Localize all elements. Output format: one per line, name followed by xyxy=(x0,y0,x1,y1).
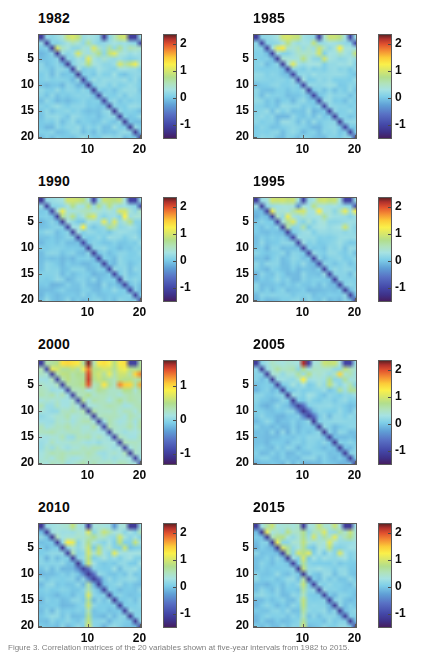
y-tick-mark xyxy=(39,411,42,412)
panel-title: 2010 xyxy=(38,500,70,515)
colorbar-tick-labels: -1012 xyxy=(180,197,210,302)
y-tick-label: 5 xyxy=(215,215,249,227)
x-tick-label: 10 xyxy=(296,143,309,155)
heatmap-matrix xyxy=(254,35,357,139)
x-tick-mark xyxy=(88,298,89,301)
y-tick-mark xyxy=(254,600,257,601)
panel-title: 1982 xyxy=(38,11,70,26)
heatmap-panel-2005: 200551015201020-1012 xyxy=(215,326,430,489)
colorbar-tick-mark xyxy=(388,234,391,235)
heatmap-panel-2010: 201051015201020-1012 xyxy=(0,489,215,652)
colorbar-tick-mark xyxy=(173,587,176,588)
colorbar-gradient xyxy=(164,35,176,138)
x-tick-label: 10 xyxy=(296,306,309,318)
colorbar-tick-label: 1 xyxy=(180,64,187,76)
colorbar-tick-label: 0 xyxy=(395,580,402,592)
y-tick-mark xyxy=(39,437,42,438)
colorbar-tick-label: 2 xyxy=(180,37,187,49)
colorbar-gradient xyxy=(379,198,391,301)
colorbar-tick-mark xyxy=(173,125,176,126)
x-tick-mark xyxy=(355,298,356,301)
y-tick-label: 5 xyxy=(215,378,249,390)
colorbar-tick-label: -1 xyxy=(180,281,191,293)
x-axis-ticks: 1020 xyxy=(253,467,357,485)
y-tick-mark xyxy=(39,222,42,223)
heatmap-plot-area xyxy=(253,360,357,465)
x-tick-mark xyxy=(140,624,141,627)
y-tick-label: 20 xyxy=(215,619,249,631)
colorbar-tick-mark xyxy=(173,234,176,235)
y-tick-label: 20 xyxy=(0,293,34,305)
x-tick-label: 20 xyxy=(348,469,361,481)
x-tick-label: 20 xyxy=(348,306,361,318)
colorbar-tick-label: 0 xyxy=(180,413,187,425)
x-axis-ticks: 1020 xyxy=(38,141,142,159)
y-tick-mark xyxy=(39,548,42,549)
x-tick-mark xyxy=(303,135,304,138)
colorbar-tick-labels: -1012 xyxy=(180,523,210,628)
y-axis-ticks: 5101520 xyxy=(0,523,34,628)
y-tick-mark xyxy=(254,437,257,438)
colorbar-tick-label: -1 xyxy=(180,607,191,619)
colorbar-tick-mark xyxy=(173,207,176,208)
colorbar-tick-mark xyxy=(388,261,391,262)
colorbar-tick-mark xyxy=(173,560,176,561)
heatmap-panel-1990: 199051015201020-1012 xyxy=(0,163,215,326)
heatmap-panel-2015: 201551015201020-1012 xyxy=(215,489,430,652)
panel-title: 1990 xyxy=(38,174,70,189)
heatmap-figure-grid: 198251015201020-1012198551015201020-1012… xyxy=(0,0,430,653)
colorbar-tick-mark xyxy=(388,560,391,561)
heatmap-plot-area xyxy=(253,523,357,628)
figure-caption: Figure 3. Correlation matrices of the 20… xyxy=(8,643,424,653)
y-tick-label: 10 xyxy=(215,567,249,579)
colorbar-tick-label: 1 xyxy=(180,553,187,565)
y-tick-label: 5 xyxy=(215,541,249,553)
colorbar-tick-mark xyxy=(388,533,391,534)
x-tick-mark xyxy=(355,135,356,138)
colorbar-tick-label: 2 xyxy=(395,363,402,375)
x-tick-mark xyxy=(355,461,356,464)
colorbar-tick-mark xyxy=(388,98,391,99)
x-tick-label: 20 xyxy=(348,143,361,155)
colorbar-tick-mark xyxy=(388,587,391,588)
y-tick-label: 20 xyxy=(215,293,249,305)
x-tick-label: 10 xyxy=(296,469,309,481)
heatmap-matrix xyxy=(39,198,142,302)
heatmap-plot-area xyxy=(253,34,357,139)
colorbar-tick-mark xyxy=(173,386,176,387)
colorbar-tick-mark xyxy=(388,397,391,398)
y-tick-label: 10 xyxy=(0,404,34,416)
x-tick-label: 20 xyxy=(133,306,146,318)
y-tick-mark xyxy=(254,222,257,223)
y-axis-ticks: 5101520 xyxy=(215,523,249,628)
y-axis-ticks: 5101520 xyxy=(0,34,34,139)
heatmap-panel-1982: 198251015201020-1012 xyxy=(0,0,215,163)
y-axis-ticks: 5101520 xyxy=(0,360,34,465)
colorbar-tick-labels: -1012 xyxy=(395,197,425,302)
colorbar-gradient xyxy=(379,35,391,138)
y-tick-label: 15 xyxy=(215,104,249,116)
y-tick-mark xyxy=(254,574,257,575)
y-tick-mark xyxy=(254,111,257,112)
y-tick-mark xyxy=(39,600,42,601)
x-axis-ticks: 1020 xyxy=(38,467,142,485)
colorbar xyxy=(378,360,392,465)
heatmap-matrix xyxy=(39,524,142,628)
colorbar-tick-mark xyxy=(388,207,391,208)
x-tick-mark xyxy=(88,135,89,138)
y-tick-label: 5 xyxy=(0,378,34,390)
x-axis-ticks: 1020 xyxy=(253,141,357,159)
colorbar-tick-label: 2 xyxy=(395,37,402,49)
colorbar-tick-label: -1 xyxy=(395,607,406,619)
y-tick-mark xyxy=(39,111,42,112)
panel-title: 2000 xyxy=(38,337,70,352)
y-tick-mark xyxy=(39,274,42,275)
colorbar-tick-mark xyxy=(388,614,391,615)
colorbar-tick-mark xyxy=(388,424,391,425)
colorbar-tick-label: -1 xyxy=(180,447,191,459)
heatmap-matrix xyxy=(254,361,357,465)
y-tick-label: 10 xyxy=(0,241,34,253)
y-tick-label: 10 xyxy=(215,404,249,416)
x-tick-mark xyxy=(88,624,89,627)
colorbar-tick-mark xyxy=(173,454,176,455)
